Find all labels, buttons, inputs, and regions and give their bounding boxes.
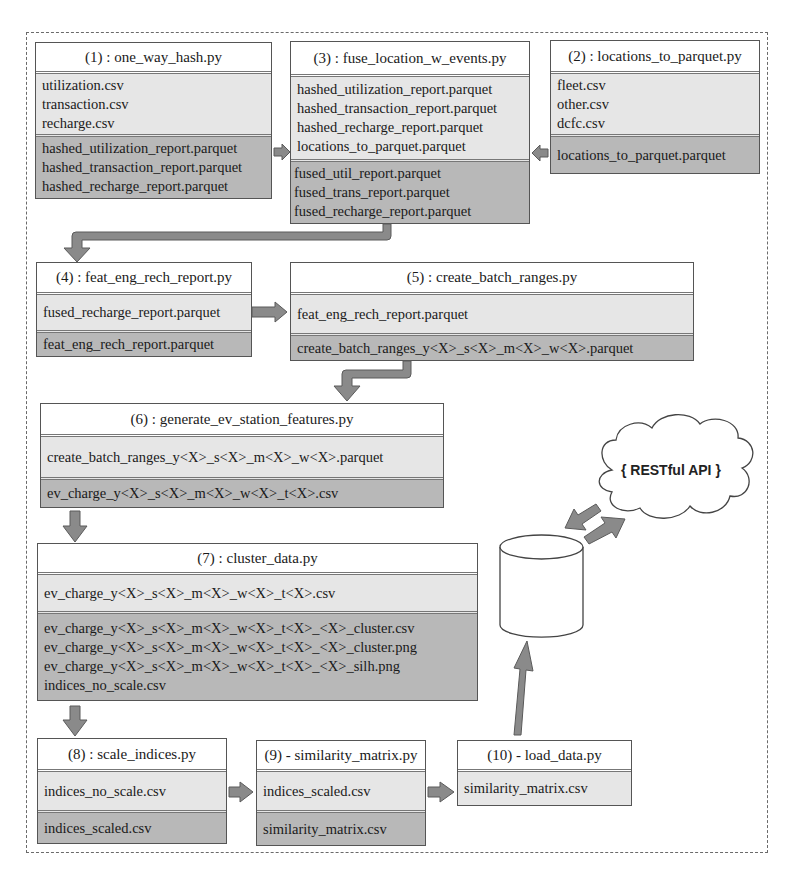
arrow-right-icon <box>428 782 454 802</box>
arrow-up-right-icon <box>584 517 625 544</box>
arrow-right-icon <box>229 782 253 802</box>
arrow-right-icon <box>274 144 290 160</box>
connectors-layer <box>0 0 794 883</box>
arrow-left-icon <box>532 145 548 161</box>
restful-api-label: { RESTful API } <box>621 462 721 478</box>
arrow-down-icon <box>63 511 87 542</box>
arrow-down-left-icon <box>565 504 601 530</box>
database-cylinder-icon <box>500 535 583 637</box>
arrow-down-icon <box>63 706 87 736</box>
arrow-right-icon <box>252 302 287 322</box>
elbow-arrow-icon <box>64 224 391 262</box>
arrow-up-icon <box>514 641 533 735</box>
elbow-arrow-icon <box>334 361 411 401</box>
